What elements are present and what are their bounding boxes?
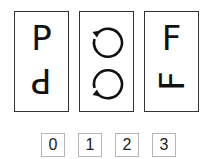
panel-3-top-glyph: F	[145, 21, 198, 55]
option-0[interactable]: 0	[41, 133, 65, 157]
panel-1-bottom-glyph: P	[15, 64, 68, 98]
letter-f: F	[162, 18, 182, 58]
option-1[interactable]: 1	[78, 133, 102, 157]
option-3[interactable]: 3	[152, 133, 176, 157]
letter-f-rotated: F	[155, 71, 189, 91]
option-2[interactable]: 2	[115, 133, 139, 157]
answer-options: 0 1 2 3	[0, 133, 211, 157]
letter-p: P	[31, 18, 52, 58]
panel-1: P P	[14, 11, 69, 112]
circular-arrows-icon	[80, 12, 133, 111]
panel-2	[79, 11, 134, 112]
panel-3-bottom-glyph: F	[145, 64, 198, 98]
letter-p-rotated: P	[31, 64, 52, 98]
panel-1-top-glyph: P	[15, 21, 68, 55]
panel-3: F F	[144, 11, 199, 112]
